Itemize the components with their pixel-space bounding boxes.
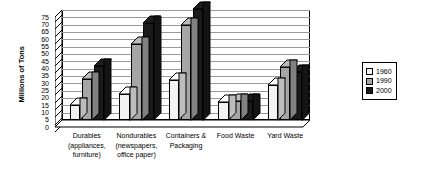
legend-swatch-1990 [366, 78, 373, 85]
bar-face [169, 80, 180, 120]
x-axis-category-label: Yard Waste [254, 131, 316, 141]
bar-side [241, 94, 247, 113]
legend: 196019902000 [362, 62, 397, 100]
bar-side [203, 2, 209, 113]
bar-top [218, 95, 229, 102]
legend-item-1990: 1990 [366, 77, 392, 85]
bar-side [179, 73, 185, 113]
y-axis-tick-label: 40 [41, 65, 49, 72]
bar-1960-3 [169, 80, 180, 120]
bar-side [290, 60, 296, 113]
gridline-tick [55, 10, 64, 19]
gridline [62, 10, 310, 11]
y-axis-tick-label: 30 [41, 80, 49, 87]
y-axis-tick-label: 20 [41, 94, 49, 101]
x-axis-category-labels: Durables(appliances,furniture)Nondurable… [55, 131, 317, 183]
bar-side [92, 72, 98, 113]
y-axis-tick-label: 10 [41, 109, 49, 116]
bar-top [131, 37, 142, 44]
bar-top [280, 60, 291, 67]
bar-top [193, 2, 204, 9]
y-axis-tick-label: 75 [41, 14, 49, 21]
bar-side [104, 59, 110, 113]
legend-swatch-2000 [366, 87, 373, 94]
y-axis-tick-label: 0 [45, 124, 49, 131]
bar-top [169, 73, 180, 80]
bar-side [154, 16, 160, 113]
bar-top [143, 16, 154, 23]
bar-face [70, 105, 81, 120]
y-axis-tick-label: 60 [41, 36, 49, 43]
legend-item-1960: 1960 [366, 68, 392, 76]
y-axis-tick-label: 55 [41, 43, 49, 50]
bar-1960-1 [70, 105, 81, 120]
y-axis-tick-label: 15 [41, 102, 49, 109]
bar-top [82, 72, 93, 79]
bar-side [191, 18, 197, 113]
bar-1960-2 [119, 94, 130, 120]
bar-top [181, 18, 192, 25]
bar-top [119, 87, 130, 94]
legend-label-2000: 2000 [376, 87, 392, 95]
bar-top [268, 78, 279, 85]
y-axis-tick-label: 35 [41, 72, 49, 79]
legend-swatch-1960 [366, 68, 373, 75]
bar-top [94, 59, 105, 66]
legend-item-2000: 2000 [366, 87, 392, 95]
bar-side [229, 95, 235, 113]
bar-side [142, 37, 148, 113]
x-axis-label-line: office paper) [106, 150, 168, 160]
legend-label-1990: 1990 [376, 77, 392, 85]
y-axis-tick-label: 45 [41, 58, 49, 65]
bar-chart: Millions of Tons 05101520253035404550556… [0, 0, 424, 186]
bar-1960-5 [268, 85, 279, 120]
bar-side [278, 78, 284, 113]
bar-face [268, 85, 279, 120]
bar-face [119, 94, 130, 120]
y-axis-tick-label: 65 [41, 28, 49, 35]
bar-side [80, 98, 86, 113]
y-axis-title-text: Millions of Tons [17, 46, 26, 103]
y-axis-tick-labels: 051015202530354045505560657075 [26, 10, 52, 127]
y-axis-tick-label: 50 [41, 50, 49, 57]
y-axis-tick-label: 5 [45, 116, 49, 123]
legend-label-1960: 1960 [376, 68, 392, 76]
plot-area [55, 10, 310, 127]
bar-side [253, 94, 259, 113]
chart-floor [55, 120, 310, 127]
y-axis-tick-label: 25 [41, 87, 49, 94]
bar-face [218, 102, 229, 120]
bar-side [130, 87, 136, 113]
bar-1960-4 [218, 102, 229, 120]
x-axis-label-line: Packaging [155, 141, 217, 151]
bar-side [302, 65, 308, 113]
x-axis-label-line: Yard Waste [254, 131, 316, 141]
y-axis-tick-label: 70 [41, 21, 49, 28]
bar-top [70, 98, 81, 105]
